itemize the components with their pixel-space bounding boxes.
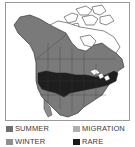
legend-label: SUMMER xyxy=(15,124,49,133)
legend-label: MIGRATION xyxy=(82,124,125,133)
summer-swatch-icon xyxy=(6,126,13,132)
legend-label: WINTER xyxy=(15,137,45,146)
legend-label: RARE xyxy=(82,137,103,146)
legend-item-rare: RARE xyxy=(73,137,103,146)
north-america-map xyxy=(6,3,129,120)
legend-item-migration: MIGRATION xyxy=(73,124,125,133)
range-map xyxy=(5,2,130,121)
migration-swatch-icon xyxy=(73,126,80,132)
legend-item-summer: SUMMER xyxy=(6,124,49,133)
winter-swatch-icon xyxy=(6,139,13,145)
rare-swatch-icon xyxy=(73,139,80,145)
map-legend: SUMMER MIGRATION WINTER RARE xyxy=(6,124,132,146)
legend-item-winter: WINTER xyxy=(6,137,45,146)
